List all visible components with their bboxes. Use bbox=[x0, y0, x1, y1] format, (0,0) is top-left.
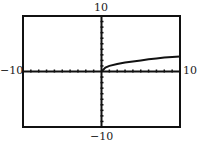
plot-area bbox=[0, 0, 197, 145]
